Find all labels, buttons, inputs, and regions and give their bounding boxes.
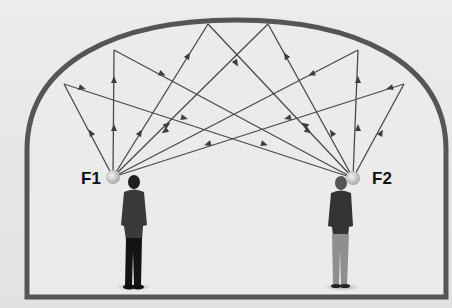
diagram-stage: F1 F2 xyxy=(0,0,452,308)
focus-f1-label: F1 xyxy=(81,170,101,187)
focus-f2-label: F2 xyxy=(372,170,392,187)
focus-f1-marker xyxy=(106,170,120,184)
whispering-gallery-diagram xyxy=(0,0,452,308)
focus-f2-marker xyxy=(346,171,360,185)
